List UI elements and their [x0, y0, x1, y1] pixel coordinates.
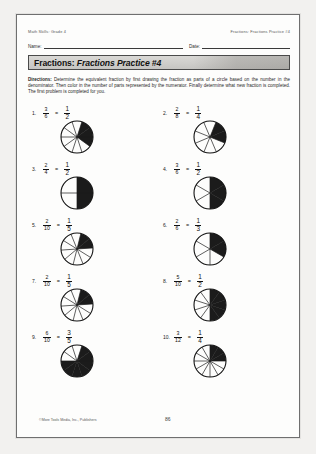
name-input-line[interactable]	[44, 42, 183, 49]
problem-item: 9.610=35	[28, 330, 159, 386]
fraction-circle	[193, 344, 227, 378]
equation-row: 9.610=35	[28, 330, 159, 345]
sector-divider	[200, 305, 209, 318]
sector-divider	[196, 193, 210, 201]
given-fraction: 36	[43, 107, 49, 120]
answer-fraction: 35	[66, 330, 72, 345]
equals-sign: =	[57, 278, 60, 284]
fraction-circle	[60, 232, 94, 266]
problem-item: 5.210=15	[28, 218, 159, 274]
equals-sign: =	[186, 110, 189, 116]
equals-sign: =	[188, 334, 191, 340]
page-number: 86	[97, 416, 279, 422]
fraction-circle-wrap	[28, 344, 159, 378]
answer-numerator: 1	[64, 106, 70, 112]
numerator: 6	[44, 331, 49, 336]
answer-numerator: 1	[195, 106, 201, 112]
numerator: 3	[175, 163, 180, 168]
answer-fraction: 13	[195, 218, 201, 233]
equation-row: 3.24=12	[28, 162, 159, 177]
problem-number: 9.	[32, 334, 43, 340]
title-bar: Fractions: Fractions Practice #4	[28, 55, 290, 70]
problem-number: 10.	[163, 334, 174, 340]
title-prefix: Fractions:	[34, 58, 75, 68]
fraction-circle-wrap	[159, 344, 290, 378]
answer-numerator: 1	[197, 274, 203, 280]
sector-divider	[194, 300, 209, 305]
numerator: 2	[44, 219, 49, 224]
sector-divider	[61, 305, 77, 306]
equation-row: 5.210=15	[28, 218, 159, 233]
running-head-left: Math Skills: Grade 4	[28, 29, 66, 34]
problem-number: 7.	[32, 278, 43, 284]
numerator: 5	[175, 275, 180, 280]
answer-numerator: 1	[195, 218, 201, 224]
equation-row: 7.210=15	[28, 274, 159, 289]
equals-sign: =	[55, 166, 58, 172]
answer-numerator: 1	[66, 274, 72, 280]
problem-number: 2.	[163, 110, 174, 116]
paper-sheet: Math Skills: Grade 4 Fractions: Fraction…	[16, 14, 300, 438]
date-label: Date:	[189, 44, 200, 49]
given-fraction: 510	[174, 275, 182, 288]
problem-item: 10.312=14	[159, 330, 290, 386]
sector-divider	[61, 249, 77, 250]
answer-numerator: 1	[197, 330, 203, 336]
answer-fraction: 14	[195, 106, 201, 121]
problem-grid: 1.36=122.28=143.24=124.36=125.210=156.26…	[28, 106, 290, 386]
sector-divider	[200, 292, 209, 305]
name-date-row: Name: Date:	[28, 39, 290, 49]
equals-sign: =	[186, 222, 189, 228]
sector-divider	[64, 127, 77, 136]
problem-item: 6.26=13	[159, 218, 290, 274]
name-label: Name:	[28, 44, 42, 49]
equals-sign: =	[57, 222, 60, 228]
sector-divider	[196, 249, 210, 257]
fraction-circle-wrap	[159, 288, 290, 322]
equation-row: 4.36=12	[159, 162, 290, 177]
answer-fraction: 12	[195, 162, 201, 177]
problem-number: 5.	[32, 222, 43, 228]
equation-row: 10.312=14	[159, 330, 290, 345]
page-footer: ©More Tools Media, Inc., Publishers 86	[39, 416, 279, 422]
answer-fraction: 15	[66, 274, 72, 289]
fraction-circle	[60, 120, 94, 154]
fraction-circle-wrap	[159, 120, 290, 154]
problem-number: 6.	[163, 222, 174, 228]
numerator: 2	[44, 163, 49, 168]
given-fraction: 36	[174, 163, 180, 176]
fraction-circle	[193, 288, 227, 322]
answer-fraction: 12	[197, 274, 203, 289]
fraction-circle-wrap	[159, 176, 290, 210]
problem-item: 3.24=12	[28, 162, 159, 218]
given-fraction: 210	[43, 275, 51, 288]
answer-fraction: 15	[66, 218, 72, 233]
problem-number: 1.	[32, 110, 43, 116]
sector-divider	[194, 305, 209, 310]
sector-divider	[64, 351, 77, 360]
equation-row: 6.26=13	[159, 218, 290, 233]
numerator: 2	[44, 275, 49, 280]
answer-numerator: 1	[66, 218, 72, 224]
given-fraction: 312	[174, 331, 182, 344]
equation-row: 8.510=12	[159, 274, 290, 289]
running-head: Math Skills: Grade 4 Fractions: Fraction…	[28, 25, 290, 34]
fraction-circle-wrap	[28, 120, 159, 154]
problem-number: 3.	[32, 166, 43, 172]
fraction-circle	[60, 176, 94, 210]
fraction-circle	[193, 232, 227, 266]
problem-item: 2.28=14	[159, 106, 290, 162]
scan-smudge	[193, 56, 289, 69]
equals-sign: =	[57, 334, 60, 340]
fraction-circle	[60, 288, 94, 322]
equation-row: 1.36=12	[28, 106, 159, 121]
directions-paragraph: Directions: Determine the equivalent fra…	[28, 77, 290, 96]
answer-numerator: 3	[66, 330, 72, 336]
date-input-line[interactable]	[202, 42, 290, 49]
answer-numerator: 1	[195, 162, 201, 168]
running-head-right: Fractions: Fractions Practice #4	[230, 29, 290, 34]
worksheet-page: Math Skills: Grade 4 Fractions: Fraction…	[0, 0, 316, 454]
problem-item: 1.36=12	[28, 106, 159, 162]
answer-fraction: 12	[64, 106, 70, 121]
given-fraction: 28	[174, 107, 180, 120]
